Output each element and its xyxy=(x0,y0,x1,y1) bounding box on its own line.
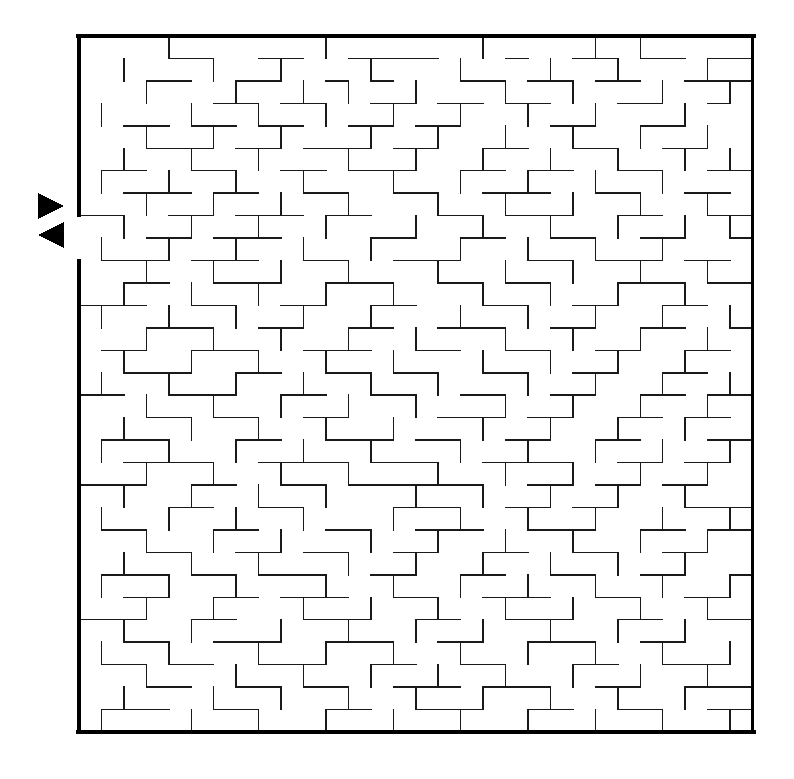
page-background xyxy=(0,0,794,779)
maze-canvas[interactable] xyxy=(0,0,794,779)
maze-page xyxy=(0,0,794,779)
